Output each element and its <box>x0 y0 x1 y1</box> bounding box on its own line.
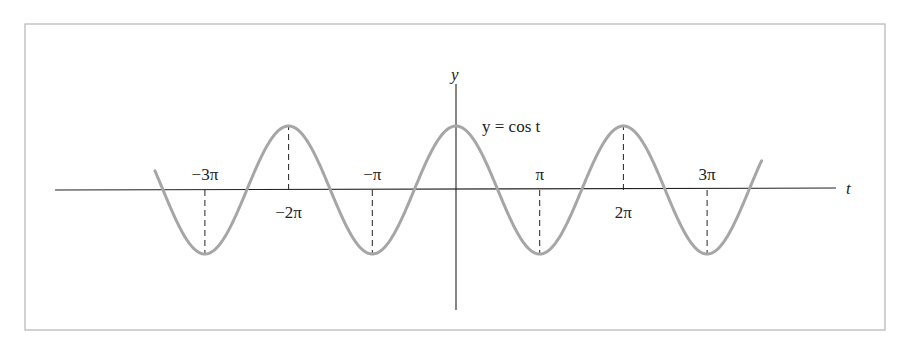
function-label: y = cos t <box>482 117 540 136</box>
t-axis-label: t <box>846 179 852 198</box>
cosine-curve <box>155 126 762 254</box>
tick-label: 2π <box>615 203 633 222</box>
tick-label: −π <box>363 165 382 184</box>
tick-label: 3π <box>699 165 717 184</box>
tick-label: −3π <box>192 165 219 184</box>
t-axis <box>55 188 836 190</box>
t-axis-tick-labels: −3π−2π−ππ2π3π <box>192 165 716 222</box>
tick-label: −2π <box>275 203 302 222</box>
tick-label: π <box>535 165 544 184</box>
y-axis-label: y <box>449 65 459 84</box>
cosine-figure: −3π−2π−ππ2π3π y t y = cos t <box>0 0 914 355</box>
